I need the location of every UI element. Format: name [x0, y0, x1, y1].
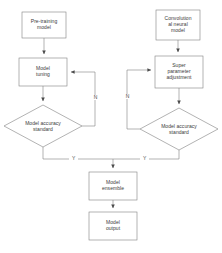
node-model-ensemble	[89, 172, 137, 200]
edge-label-left-no: N	[91, 95, 100, 100]
node-pretraining-model	[22, 12, 66, 38]
node-model-tuning	[19, 58, 67, 86]
edge-label-right-no: N	[123, 94, 132, 99]
node-decision-right	[140, 108, 218, 150]
node-model-output	[89, 212, 137, 240]
node-decision-left	[4, 105, 82, 147]
edge-label-left-yes: Y	[69, 156, 78, 161]
node-convolutional-neural-model	[156, 10, 200, 40]
edge-label-right-yes: Y	[140, 156, 149, 161]
node-super-parameter-adjustment	[155, 56, 203, 88]
edge-decision-right-no-loop	[127, 70, 151, 129]
flowchart-svg	[0, 0, 222, 253]
flowchart-canvas: Pre-training model Convolution al neural…	[0, 0, 222, 253]
